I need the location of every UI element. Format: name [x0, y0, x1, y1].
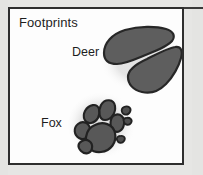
deer-hoofprint-icon — [98, 25, 184, 95]
figure-page: Footprints — [0, 0, 203, 175]
fox-pawprint-icon — [68, 91, 140, 159]
page-title: Footprints — [19, 15, 78, 30]
top-rule-divider — [184, 7, 203, 9]
track-label-fox: Fox — [41, 116, 62, 130]
page-margin-left — [0, 0, 8, 175]
track-label-deer: Deer — [72, 45, 99, 59]
page-margin-right — [192, 0, 203, 175]
footprints-panel: Footprints — [8, 7, 184, 165]
